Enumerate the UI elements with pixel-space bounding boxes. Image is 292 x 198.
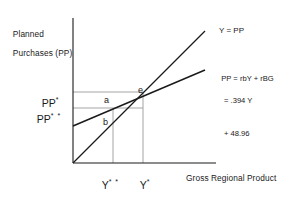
series-label-planned-purchases: PP = rbY + rBG = .394 Y + 48.96 <box>217 62 274 150</box>
y-axis-title-line1: Planned <box>13 29 44 39</box>
annotation-equilibrium-e: e <box>138 85 143 95</box>
x-tick-label-y-star-star: Y* * <box>96 166 119 191</box>
annotation-b: b <box>103 117 108 127</box>
pp-equation-line2: = .394 Y <box>217 95 274 106</box>
y-axis-title-line2: Purchases (PP) <box>13 48 73 58</box>
pp-equation-line1: PP = rbY + rBG <box>221 74 273 83</box>
x-tick-label-y-star: Y* <box>134 166 150 191</box>
y-tick-pp-star-star-superscript: * * <box>51 112 61 119</box>
y-tick-label-pp-star-star: PP* * <box>31 100 61 125</box>
x-tick-y-star-base: Y <box>140 179 147 191</box>
x-tick-y-star-star-superscript: * * <box>109 178 119 185</box>
x-tick-y-star-star-base: Y <box>102 179 109 191</box>
annotation-a: a <box>104 95 109 105</box>
x-axis-title: Gross Regional Product <box>186 174 276 184</box>
y-tick-pp-star-star-base: PP <box>37 113 51 125</box>
y-axis-title: Planned Purchases (PP) <box>8 20 72 59</box>
pp-equation-line3: + 48.96 <box>217 128 274 139</box>
x-tick-y-star-superscript: * <box>147 178 151 185</box>
series-label-y-equals-pp: Y = PP <box>219 26 244 35</box>
